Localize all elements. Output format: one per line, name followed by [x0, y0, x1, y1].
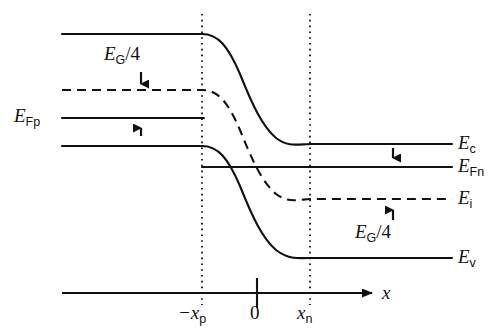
label-efn: EFn [458, 156, 484, 175]
label-ev-main: E [458, 246, 470, 267]
energy-band-diagram-figure: EFp Ec EFn Ei Ev EG/4 EG/4 x −xp 0 xn [0, 0, 499, 336]
label-eg4-top-tail: /4 [125, 43, 140, 64]
label-axis-x: x [382, 283, 390, 302]
tick-label-zero-main: 0 [250, 302, 260, 323]
label-ec-sub: c [470, 142, 476, 156]
label-eg4-bottom-main: E [355, 221, 367, 242]
label-ec-main: E [458, 132, 470, 153]
label-ei-main: E [458, 187, 470, 208]
label-eg4-top-main: E [104, 43, 116, 64]
tick-label-xp-sub: p [199, 312, 206, 326]
label-ev: Ev [458, 247, 476, 266]
label-ev-sub: v [470, 256, 476, 270]
label-ei: Ei [458, 188, 472, 207]
tick-label-xp: −xp [178, 303, 206, 322]
label-efn-sub: Fn [470, 165, 485, 179]
label-efp-main: E [14, 105, 26, 126]
label-eg4-bottom: EG/4 [355, 222, 391, 241]
label-efn-main: E [458, 155, 470, 176]
label-efp-sub: Fp [26, 115, 41, 129]
label-axis-x-main: x [382, 282, 390, 303]
tick-label-xp-main: −x [178, 302, 199, 323]
label-ei-sub: i [470, 197, 473, 211]
valence-band-curve [62, 146, 452, 258]
label-eg4-bottom-tail: /4 [376, 221, 391, 242]
label-ec: Ec [458, 133, 476, 152]
tick-label-xn: xn [297, 303, 312, 322]
tick-label-zero: 0 [250, 303, 260, 322]
label-eg4-top-sub: G [116, 53, 126, 67]
label-efp: EFp [14, 106, 40, 125]
tick-label-xn-sub: n [305, 312, 312, 326]
label-eg4-top: EG/4 [104, 44, 140, 63]
band-diagram-canvas [0, 0, 499, 336]
label-eg4-bottom-sub: G [367, 231, 377, 245]
